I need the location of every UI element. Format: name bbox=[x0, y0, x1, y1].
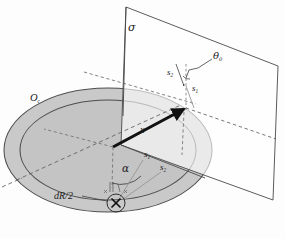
alpha-angle-label: α bbox=[122, 162, 129, 174]
geometry-diagram: σ Oc x α θ0 dR/2 s1 s2 s bbox=[0, 0, 285, 239]
position-vector-label: x bbox=[139, 124, 145, 135]
dr-half-label: dR/2 bbox=[54, 190, 73, 201]
figure-container: σ Oc x α θ0 dR/2 s1 s2 s bbox=[0, 0, 285, 239]
oc-disk-label: Oc bbox=[30, 92, 41, 104]
sigma-plane-label: σ bbox=[128, 21, 136, 34]
